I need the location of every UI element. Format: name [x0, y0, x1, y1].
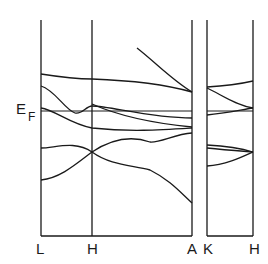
band-5 — [41, 133, 192, 180]
kpoint-label-H2: H — [249, 241, 260, 256]
band-k6 — [207, 152, 253, 166]
kpoint-label-K: K — [203, 241, 213, 256]
kpoint-label-L: L — [36, 241, 44, 256]
fermi-label: E — [16, 101, 26, 116]
band-structure-plot — [0, 0, 268, 264]
band-4 — [41, 145, 192, 203]
band-1 — [41, 74, 192, 92]
fermi-label-sub: F — [28, 111, 35, 123]
band-k1 — [207, 81, 253, 87]
kpoint-label-A: A — [187, 241, 197, 256]
kpoint-label-H: H — [87, 241, 98, 256]
band-k2 — [207, 88, 253, 108]
